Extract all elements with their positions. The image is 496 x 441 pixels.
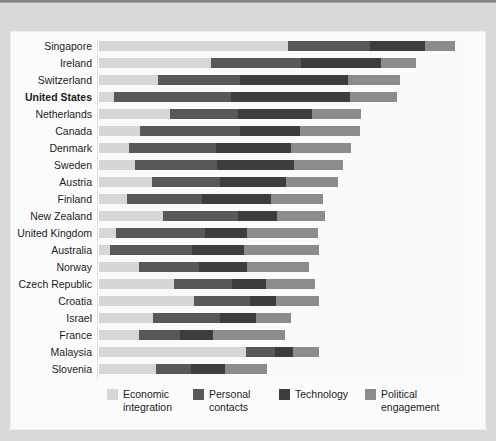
bar-segment-political-engagement (271, 194, 323, 204)
bar-segment-technology (205, 228, 248, 238)
bar-segment-personal-contacts (139, 262, 200, 272)
chart-row: Finland (98, 193, 470, 210)
legend-label-line2: engagement (381, 401, 439, 414)
bar-segment-political-engagement (247, 262, 308, 272)
bar-segment-personal-contacts (163, 211, 238, 221)
bar-segment-personal-contacts (140, 126, 239, 136)
legend-label-line2: integration (123, 401, 172, 414)
bar-segment-political-engagement (225, 364, 267, 374)
bar-segment-technology (202, 194, 271, 204)
stacked-bar (99, 330, 285, 340)
stacked-bar (99, 364, 267, 374)
chart-row: Czech Republic (98, 278, 470, 295)
category-label: United Kingdom (16, 227, 98, 239)
legend-label: Politicalengagement (381, 388, 439, 413)
category-label: France (16, 329, 98, 341)
legend-label-line1: Political (381, 388, 439, 401)
bar-segment-technology (231, 92, 350, 102)
chart-row: Denmark (98, 142, 470, 159)
legend-swatch-economic-integration (107, 389, 118, 400)
legend-item[interactable]: Economicintegration (107, 388, 193, 413)
legend-label-line1: Economic (123, 388, 172, 401)
bar-segment-technology (240, 126, 301, 136)
bar-segment-political-engagement (247, 228, 318, 238)
bar-segment-personal-contacts (153, 313, 220, 323)
legend-swatch-political-engagement (365, 389, 376, 400)
bar-segment-technology (301, 58, 382, 68)
top-divider-rule (0, 0, 496, 3)
legend-label-line1: Personal (209, 388, 250, 401)
category-label: United States (16, 91, 98, 103)
bar-segment-political-engagement (213, 330, 285, 340)
stacked-bar (99, 228, 318, 238)
bar-segment-political-engagement (266, 279, 315, 289)
bar-segment-personal-contacts (170, 109, 238, 119)
bar-segment-technology (191, 364, 224, 374)
legend-swatch-technology (279, 389, 290, 400)
legend-label: Technology (295, 388, 348, 401)
chart-row: United States (98, 91, 470, 108)
stacked-bar (99, 279, 315, 289)
bar-segment-economic-integration (99, 177, 152, 187)
category-label: Denmark (16, 142, 98, 154)
page-root: SingaporeIrelandSwitzerlandUnited States… (0, 0, 496, 441)
bar-segment-personal-contacts (156, 364, 191, 374)
bar-segment-personal-contacts (194, 296, 250, 306)
bar-segment-personal-contacts (158, 75, 240, 85)
chart-row: Malaysia (98, 346, 470, 363)
legend-item[interactable]: Technology (279, 388, 365, 401)
category-label: Slovenia (16, 363, 98, 375)
bar-segment-technology (180, 330, 213, 340)
bar-segment-technology (199, 262, 247, 272)
category-label: Ireland (16, 57, 98, 69)
bar-segment-economic-integration (99, 296, 194, 306)
legend-item[interactable]: Personalcontacts (193, 388, 279, 413)
bar-segment-economic-integration (99, 245, 110, 255)
bar-segment-economic-integration (99, 194, 127, 204)
stacked-bar (99, 126, 360, 136)
bar-segment-economic-integration (99, 75, 158, 85)
bar-segment-personal-contacts (110, 245, 192, 255)
chart-row: Israel (98, 312, 470, 329)
category-label: Czech Republic (16, 278, 98, 290)
bar-segment-technology (370, 41, 424, 51)
legend-item[interactable]: Politicalengagement (365, 388, 451, 413)
bar-segment-personal-contacts (114, 92, 231, 102)
category-label: Singapore (16, 40, 98, 52)
stacked-bar (99, 194, 323, 204)
stacked-bar (99, 313, 291, 323)
bar-segment-political-engagement (381, 58, 416, 68)
bar-segment-personal-contacts (139, 330, 180, 340)
bar-segment-personal-contacts (135, 160, 217, 170)
bar-segment-political-engagement (277, 211, 324, 221)
bar-segment-economic-integration (99, 92, 114, 102)
chart-row: Australia (98, 244, 470, 261)
chart-row: United Kingdom (98, 227, 470, 244)
category-label: Croatia (16, 295, 98, 307)
bar-segment-political-engagement (291, 143, 352, 153)
category-label: Finland (16, 193, 98, 205)
bar-segment-technology (216, 143, 290, 153)
chart-row: Netherlands (98, 108, 470, 125)
chart-card: SingaporeIrelandSwitzerlandUnited States… (10, 31, 486, 430)
bar-segment-technology (275, 347, 293, 357)
category-label: Switzerland (16, 74, 98, 86)
bar-segment-technology (217, 160, 293, 170)
category-label: Australia (16, 244, 98, 256)
chart-row: Ireland (98, 57, 470, 74)
bar-segment-economic-integration (99, 313, 153, 323)
bar-segment-political-engagement (425, 41, 455, 51)
stacked-bar (99, 75, 400, 85)
bar-segment-economic-integration (99, 262, 139, 272)
chart-row: Austria (98, 176, 470, 193)
bar-segment-political-engagement (276, 296, 319, 306)
chart-plot-area: SingaporeIrelandSwitzerlandUnited States… (97, 40, 470, 380)
legend-label: Personalcontacts (209, 388, 250, 413)
stacked-bar (99, 262, 309, 272)
bar-segment-economic-integration (99, 109, 170, 119)
bar-segment-economic-integration (99, 279, 174, 289)
bar-segment-political-engagement (244, 245, 320, 255)
chart-row: Sweden (98, 159, 470, 176)
bar-segment-technology (220, 177, 286, 187)
stacked-bar (99, 296, 319, 306)
